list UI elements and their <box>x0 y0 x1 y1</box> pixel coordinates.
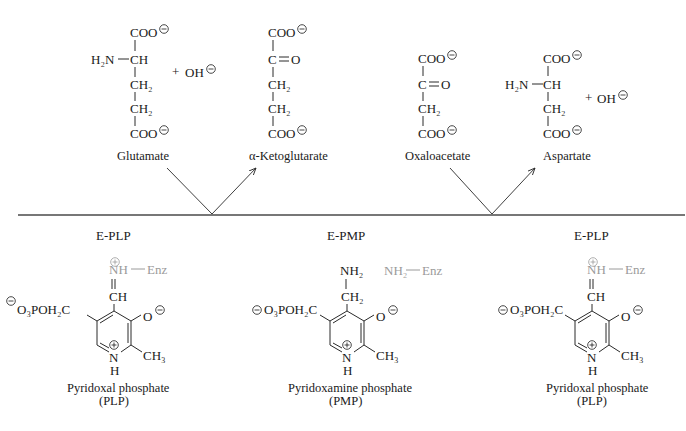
oaa-coo-top: COO <box>418 51 445 66</box>
kg-coo-bottom: COO <box>268 126 295 141</box>
hydroxide: OH <box>185 65 204 80</box>
plus-charge-icon <box>588 341 597 350</box>
minus-charge-icon <box>298 126 307 135</box>
aspartate-label: Aspartate <box>543 149 591 163</box>
c4-group: CH₂ <box>341 289 364 304</box>
minus-charge-icon <box>156 306 165 315</box>
glutamate-amine: H₂N <box>91 52 115 67</box>
free-enzyme-amine: NH₂ <box>384 263 407 278</box>
cofactor-name: Pyridoxal phosphate <box>67 381 170 395</box>
minus-charge-icon <box>253 306 262 315</box>
cofactor-name: Pyridoxamine phosphate <box>288 381 412 395</box>
minus-charge-icon <box>573 126 582 135</box>
plus-charge-icon <box>110 341 119 350</box>
phosphate-group: O₃POH₂C <box>17 302 70 317</box>
ketoglutarate-structure: COO C O CH₂ CH₂ COO α-Ketoglutarate <box>249 25 328 163</box>
oxaloacetate-label: Oxaloacetate <box>405 149 471 163</box>
iminium-nh: NH <box>587 262 606 277</box>
kg-ch2-a: CH₂ <box>268 77 291 92</box>
minus-charge-icon <box>160 25 169 34</box>
arrow-up-icon <box>492 168 535 214</box>
asp-amine: H₂N <box>505 77 529 92</box>
state-label-e-plp: E-PLP <box>574 228 609 243</box>
glutamate-ch: CH <box>130 52 148 67</box>
iminium-nh: NH <box>109 262 128 277</box>
oaa-ch2: CH₂ <box>418 101 441 116</box>
right-plp-structure: E-PLP NH Enz CH O₃POH₂C O N H CH₃ Pyrido… <box>499 228 649 408</box>
methyl-group: CH₃ <box>376 348 399 363</box>
middle-pmp-structure: E-PMP NH₂ NH₂ Enz CH₂ O₃POH₂C O N H CH₃ … <box>253 228 443 408</box>
enzyme-lysine: Enz <box>147 262 167 277</box>
enzyme-lysine: Enz <box>625 262 645 277</box>
kg-ch2-b: CH₂ <box>268 101 291 116</box>
state-label-e-pmp: E-PMP <box>327 228 365 243</box>
minus-charge-icon <box>389 306 398 315</box>
glutamate-ch2-b: CH₂ <box>130 101 153 116</box>
left-plp-structure: E-PLP NH Enz CH O₃POH₂C O N H CH₃ Pyrido… <box>7 228 170 408</box>
c4-group: CH <box>109 289 127 304</box>
glutamate-coo-top: COO <box>130 25 157 40</box>
kg-carbonyl-c: C <box>268 52 277 67</box>
ring-nh: H <box>588 363 597 378</box>
minus-charge-icon <box>448 51 457 60</box>
phenolate-oxygen: O <box>376 309 385 324</box>
methyl-group: CH₃ <box>621 348 644 363</box>
c4-group: CH <box>587 289 605 304</box>
kg-coo-top: COO <box>268 25 295 40</box>
oaa-coo-bottom: COO <box>418 126 445 141</box>
transamination-diagram: COO H₂N CH CH₂ CH₂ COO + OH Glutamate CO… <box>0 0 686 431</box>
asp-ch: CH <box>543 77 561 92</box>
methyl-group: CH₃ <box>143 348 166 363</box>
arrow-up-icon <box>212 168 256 214</box>
minus-charge-icon <box>7 297 16 306</box>
state-label-e-plp: E-PLP <box>96 228 131 243</box>
oaa-carbonyl-o: O <box>441 77 450 92</box>
cofactor-abbr: (PLP) <box>577 394 607 408</box>
asp-coo-bottom: COO <box>543 126 570 141</box>
glutamate-label: Glutamate <box>117 149 170 163</box>
minus-charge-icon <box>634 306 643 315</box>
minus-charge-icon <box>448 126 457 135</box>
oaa-carbonyl-c: C <box>418 77 427 92</box>
kg-carbonyl-o: O <box>291 52 300 67</box>
cofactor-abbr: (PMP) <box>329 394 362 408</box>
plus-sign: + <box>172 64 179 79</box>
cofactor-abbr: (PLP) <box>99 394 129 408</box>
left-v-arrow <box>167 168 256 214</box>
cofactor-name: Pyridoxal phosphate <box>546 381 649 395</box>
glutamate-structure: COO H₂N CH CH₂ CH₂ COO + OH Glutamate <box>91 25 215 163</box>
aspartate-structure: COO H₂N CH CH₂ COO + OH Aspartate <box>505 51 627 163</box>
ring-nh: H <box>110 363 119 378</box>
minus-charge-icon <box>298 25 307 34</box>
minus-charge-icon <box>573 51 582 60</box>
minus-charge-icon <box>160 126 169 135</box>
minus-charge-icon <box>619 91 628 100</box>
minus-charge-icon <box>207 65 216 74</box>
hydroxide: OH <box>597 91 616 106</box>
free-enzyme: Enz <box>422 263 442 278</box>
phosphate-group: O₃POH₂C <box>264 302 317 317</box>
plus-charge-icon <box>343 341 352 350</box>
phosphate-group: O₃POH₂C <box>510 302 563 317</box>
asp-coo-top: COO <box>543 51 570 66</box>
oxaloacetate-structure: COO C O CH₂ COO Oxaloacetate <box>405 51 471 163</box>
minus-charge-icon <box>499 306 508 315</box>
glutamate-ch2-a: CH₂ <box>130 77 153 92</box>
right-v-arrow <box>450 168 535 214</box>
glutamate-coo-bottom: COO <box>130 126 157 141</box>
phenolate-oxygen: O <box>621 309 630 324</box>
asp-ch2: CH₂ <box>543 101 566 116</box>
amine-group: NH₂ <box>340 263 363 278</box>
plus-sign: + <box>585 90 592 105</box>
ketoglutarate-label: α-Ketoglutarate <box>249 149 328 163</box>
ring-nh: H <box>343 363 352 378</box>
phenolate-oxygen: O <box>143 309 152 324</box>
